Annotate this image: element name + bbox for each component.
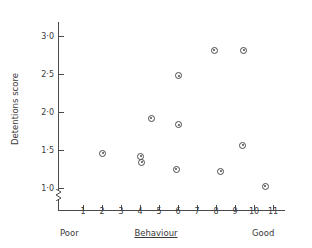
data-point (240, 47, 247, 54)
data-point (262, 183, 269, 190)
data-point (175, 121, 182, 128)
data-point (175, 72, 182, 79)
data-point (211, 47, 218, 54)
data-point (239, 142, 246, 149)
y-axis-title: Detentions score (10, 46, 20, 172)
data-point (138, 159, 145, 166)
data-point (99, 150, 106, 157)
x-axis-anchor-good: Good (252, 228, 274, 239)
scatter-plot-figure: 1234567891011 1·01·52·02·53·0 Detentions… (0, 0, 312, 248)
data-points-layer (0, 0, 312, 248)
data-point (173, 166, 180, 173)
data-point (148, 115, 155, 122)
data-point (217, 168, 224, 175)
